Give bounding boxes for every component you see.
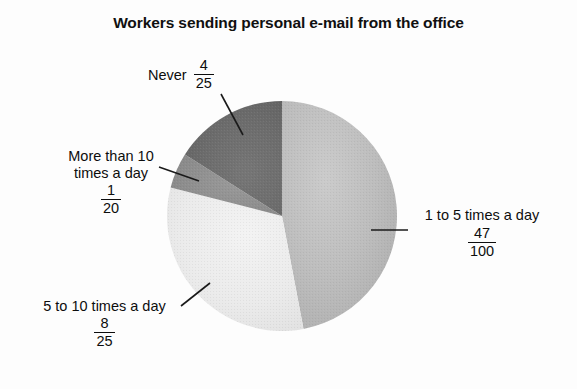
pie-label-never: Never 4 25 [148,59,215,92]
fraction-numerator: 4 [193,58,215,74]
fraction-denominator: 25 [193,75,215,91]
fraction-denominator: 25 [93,333,115,349]
pie-label-more-than-10-line1: More than 10 [31,148,191,165]
fraction-denominator: 100 [467,243,497,259]
fraction-numerator: 47 [467,226,497,242]
fraction-numerator: 8 [93,316,115,332]
pie-label-5-to-10: 5 to 10 times a day 8 25 [22,298,187,350]
pie-label-never-text: Never [148,67,187,84]
pie-label-1-to-5-fraction: 47 100 [467,226,497,259]
pie-label-5-to-10-line1: 5 to 10 times a day [22,298,187,315]
fraction-denominator: 20 [100,200,122,216]
pie-label-never-fraction: 4 25 [193,58,215,91]
fraction-numerator: 1 [100,183,122,199]
pie-label-more-than-10-line2: times a day [31,165,191,182]
pie-label-1-to-5: 1 to 5 times a day 47 100 [412,207,552,260]
pie-chart-figure: Workers sending personal e-mail from the… [0,0,577,389]
pie-label-more-than-10-fraction: 1 20 [100,183,122,216]
pie-label-more-than-10: More than 10 times a day 1 20 [31,148,191,217]
pie-label-1-to-5-line1: 1 to 5 times a day [412,207,552,224]
pie-label-5-to-10-fraction: 8 25 [93,316,115,349]
